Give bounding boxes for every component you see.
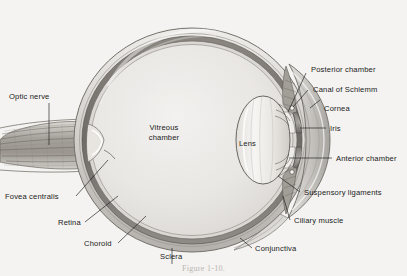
label-fovea-centralis: Fovea centralis (5, 192, 59, 201)
label-optic-nerve: Optic nerve (9, 92, 49, 101)
label-anterior-chamber: Anterior chamber (336, 154, 397, 163)
label-vitreous-chamber-line1: Vitreous (150, 123, 179, 132)
label-iris: Iris (330, 124, 341, 133)
label-posterior-chamber: Posterior chamber (311, 65, 376, 74)
figure-caption: Figure 1-10. (0, 264, 407, 273)
label-choroid: Choroid (84, 239, 112, 248)
label-retina: Retina (58, 218, 81, 227)
label-sclera: Sclera (160, 252, 182, 261)
label-cornea: Cornea (324, 104, 350, 113)
label-vitreous-chamber: Vitreous chamber (134, 123, 194, 142)
label-lens: Lens (239, 139, 256, 148)
eye-cross-section-illustration (0, 0, 407, 276)
label-canal-of-schlemm: Canal of Schlemm (313, 85, 377, 94)
label-ciliary-muscle: Ciliary muscle (294, 216, 343, 225)
label-conjunctiva: Conjunctiva (255, 244, 296, 253)
label-suspensory-ligaments: Suspensory ligaments (304, 188, 382, 197)
eye-anatomy-figure: Optic nerve Fovea centralis Retina Choro… (0, 0, 407, 276)
label-vitreous-chamber-line2: chamber (149, 133, 180, 142)
